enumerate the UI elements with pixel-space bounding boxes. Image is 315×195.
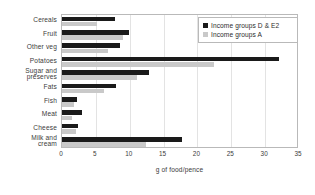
bar [62,30,129,35]
x-tick-label: 25 [227,150,234,158]
x-axis-ticks: 05101520253035 [61,150,298,162]
legend-swatch-icon [203,32,208,37]
bar [62,17,115,22]
bar [62,116,72,121]
bar-group [62,122,297,135]
bar [62,62,214,67]
bar-group [62,136,297,149]
bar-group [62,109,297,122]
category-label: Meat [0,111,57,118]
category-label: Cereals [0,17,57,24]
bar-group [62,82,297,95]
chart-legend: Income groups D & E2Income groups A [198,17,298,43]
category-label: Potatoes [0,58,57,65]
bar [62,84,116,89]
category-label: Fats [0,84,57,91]
bar [62,102,74,107]
bar [62,137,182,142]
bar [62,43,120,48]
x-tick-label: 20 [193,150,200,158]
bar-chart: CerealsFruitOther vegPotatoesSugar andpr… [0,0,315,195]
legend-entry: Income groups A [203,30,293,39]
bar [62,57,279,62]
bar [62,124,78,129]
category-label: Cheese [0,125,57,132]
bar [62,97,77,102]
category-label: Sugar andpreserves [0,68,57,82]
category-axis-labels: CerealsFruitOther vegPotatoesSugar andpr… [0,14,57,148]
bar-group [62,69,297,82]
bar-group [62,42,297,55]
x-axis-title: g of food/pence [61,166,298,173]
bar [62,129,76,134]
bar [62,110,82,115]
category-label: Fish [0,98,57,105]
category-label: Fruit [0,31,57,38]
bar [62,22,97,27]
bar [62,35,123,40]
bar-group [62,55,297,68]
legend-swatch-icon [203,23,208,28]
x-tick-label: 30 [261,150,268,158]
bar [62,49,108,54]
x-tick-label: 35 [294,150,301,158]
category-label: Milk andcream [0,135,57,149]
bar [62,142,146,147]
bar [62,89,104,94]
bar-group [62,95,297,108]
legend-label: Income groups A [211,31,262,39]
x-tick-label: 0 [59,150,63,158]
bar [62,75,137,80]
x-tick-label: 10 [125,150,132,158]
legend-entry: Income groups D & E2 [203,21,293,30]
bar [62,70,149,75]
x-tick-label: 15 [159,150,166,158]
legend-label: Income groups D & E2 [211,22,279,30]
category-label: Other veg [0,44,57,51]
x-tick-label: 5 [93,150,97,158]
